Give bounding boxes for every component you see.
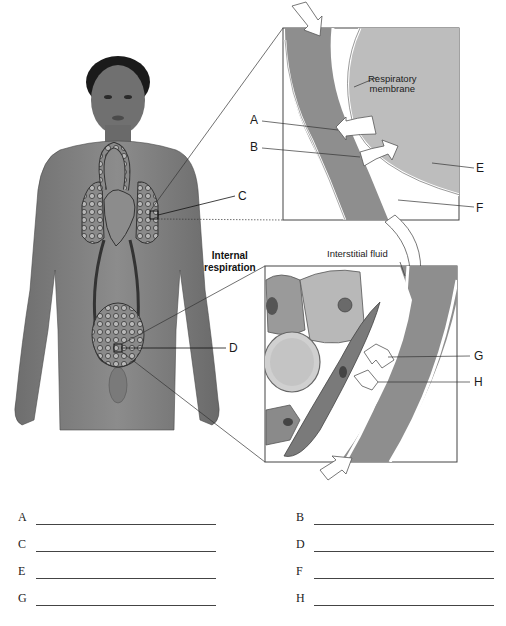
label-a: A (250, 114, 258, 126)
answer-row-f: F (296, 564, 494, 579)
answer-letter-d: D (296, 537, 314, 552)
label-d: D (229, 342, 238, 354)
respiratory-membrane-line2: membrane (368, 84, 417, 94)
respiratory-membrane-label: Respiratory membrane (368, 74, 417, 95)
answer-row-d: D (296, 537, 494, 552)
answer-blank-d[interactable] (314, 537, 494, 552)
answer-letter-f: F (296, 564, 314, 579)
diagram-illustration (0, 0, 506, 490)
alveolus-detail-box (262, 2, 474, 220)
answer-letter-c: C (18, 537, 36, 552)
answer-row-g: G (18, 591, 216, 606)
answer-blank-f[interactable] (314, 564, 494, 579)
answer-letter-h: H (296, 591, 314, 606)
respiration-diagram: Respiratory membrane Interstitial fluid … (0, 0, 506, 490)
label-h: H (474, 376, 483, 388)
answer-row-e: E (18, 564, 216, 579)
answer-blank-e[interactable] (36, 564, 216, 579)
internal-respiration-line1: Internal (204, 250, 256, 262)
answer-blank-a[interactable] (36, 510, 216, 525)
answer-letter-a: A (18, 510, 36, 525)
answer-row-b: B (296, 510, 494, 525)
answer-blank-c[interactable] (36, 537, 216, 552)
answer-blank-h[interactable] (314, 591, 494, 606)
interstitial-fluid-label: Interstitial fluid (327, 249, 388, 259)
answer-letter-e: E (18, 564, 36, 579)
label-g: G (474, 350, 483, 362)
tissue-detail-box (264, 262, 470, 480)
answer-letter-g: G (18, 591, 36, 606)
answer-blank-g[interactable] (36, 591, 216, 606)
label-e: E (476, 162, 484, 174)
internal-respiration-label: Internal respiration (204, 250, 256, 273)
answer-letter-b: B (296, 510, 314, 525)
answer-row-a: A (18, 510, 216, 525)
label-c: C (238, 190, 247, 202)
label-b: B (250, 141, 258, 153)
answer-row-h: H (296, 591, 494, 606)
label-f: F (476, 202, 483, 214)
internal-respiration-line2: respiration (204, 262, 256, 274)
answer-blank-b[interactable] (314, 510, 494, 525)
answer-row-c: C (18, 537, 216, 552)
